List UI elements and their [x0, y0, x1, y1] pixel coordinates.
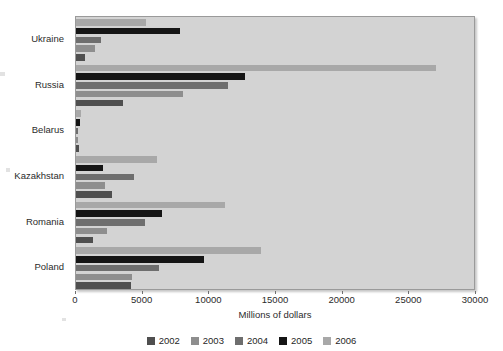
legend-label-2005: 2005	[291, 336, 312, 346]
x-tick-label: 25000	[395, 294, 421, 305]
bar-group	[76, 17, 474, 63]
legend-label-2002: 2002	[159, 336, 180, 346]
x-tick-label: 0	[72, 294, 77, 305]
legend-swatch-2005	[279, 337, 287, 345]
bar-romania-2006	[76, 202, 225, 209]
bar-russia-2004	[76, 82, 228, 89]
legend-swatch-2002	[147, 337, 155, 345]
bar-group	[76, 108, 474, 154]
category-label-russia: Russia	[35, 80, 64, 90]
x-tick-label: 15000	[262, 294, 288, 305]
category-label-ukraine: Ukraine	[31, 34, 64, 44]
bar-ukraine-2002	[76, 54, 85, 61]
x-tick-label: 30000	[462, 294, 488, 305]
bar-belarus-2006	[76, 110, 81, 117]
bar-belarus-2005	[76, 119, 80, 126]
bar-kazakhstan-2002	[76, 191, 112, 198]
legend: 20022003200420052006	[0, 334, 503, 348]
bar-poland-2005	[76, 256, 204, 263]
bar-group	[76, 154, 474, 200]
bar-romania-2003	[76, 228, 107, 235]
bar-romania-2005	[76, 210, 162, 217]
x-axis-title: Millions of dollars	[75, 309, 475, 320]
bar-russia-2005	[76, 73, 245, 80]
legend-item-2005: 2005	[279, 336, 312, 346]
x-tick-label: 10000	[195, 294, 221, 305]
bar-poland-2003	[76, 274, 132, 281]
bar-belarus-2002	[76, 145, 79, 152]
category-label-kazakhstan: Kazakhstan	[14, 171, 64, 181]
bar-kazakhstan-2006	[76, 156, 157, 163]
category-label-belarus: Belarus	[32, 125, 64, 135]
legend-item-2003: 2003	[191, 336, 224, 346]
bar-poland-2004	[76, 265, 159, 272]
legend-label-2006: 2006	[335, 336, 356, 346]
legend-item-2004: 2004	[235, 336, 268, 346]
category-label-romania: Romania	[26, 217, 64, 227]
bar-ukraine-2004	[76, 37, 101, 44]
legend-item-2006: 2006	[323, 336, 356, 346]
bar-russia-2006	[76, 65, 436, 72]
bar-group	[76, 245, 474, 291]
bar-belarus-2003	[76, 137, 78, 144]
value-axis: 050001000015000200002500030000	[75, 291, 475, 307]
legend-label-2003: 2003	[203, 336, 224, 346]
x-tick-label: 5000	[131, 294, 152, 305]
bar-group	[76, 63, 474, 109]
bar-poland-2002	[76, 282, 131, 289]
x-tick-label: 20000	[328, 294, 354, 305]
legend-label-2004: 2004	[247, 336, 268, 346]
legend-swatch-2003	[191, 337, 199, 345]
bar-ukraine-2005	[76, 28, 180, 35]
bar-ukraine-2003	[76, 45, 95, 52]
category-axis: UkraineRussiaBelarusKazakhstanRomaniaPol…	[0, 16, 70, 290]
scan-artifact	[62, 318, 66, 321]
bar-poland-2006	[76, 247, 261, 254]
bar-kazakhstan-2005	[76, 165, 103, 172]
bar-romania-2002	[76, 237, 93, 244]
legend-item-2002: 2002	[147, 336, 180, 346]
bar-belarus-2004	[76, 128, 78, 135]
legend-swatch-2006	[323, 337, 331, 345]
bar-kazakhstan-2004	[76, 174, 134, 181]
bar-russia-2002	[76, 100, 123, 107]
bar-chart: UkraineRussiaBelarusKazakhstanRomaniaPol…	[0, 0, 503, 351]
bar-kazakhstan-2003	[76, 182, 105, 189]
plot-area	[75, 16, 475, 290]
bar-russia-2003	[76, 91, 183, 98]
category-label-poland: Poland	[34, 262, 64, 272]
legend-swatch-2004	[235, 337, 243, 345]
bar-ukraine-2006	[76, 19, 146, 26]
bar-group	[76, 200, 474, 246]
bar-romania-2004	[76, 219, 145, 226]
